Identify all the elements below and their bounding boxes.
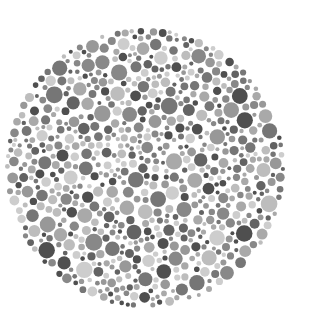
plate-dot — [57, 150, 69, 162]
plate-dot — [150, 235, 155, 240]
plate-dot — [257, 156, 262, 161]
plate-dot — [237, 221, 242, 226]
plate-dot — [158, 238, 169, 249]
plate-dot — [120, 286, 125, 291]
plate-dot — [77, 184, 82, 189]
plate-dot — [146, 34, 151, 39]
plate-dot — [196, 110, 207, 121]
plate-dot — [202, 72, 213, 83]
plate-dot — [266, 215, 271, 220]
plate-dot — [117, 149, 126, 158]
plate-dot — [50, 172, 56, 178]
plate-dot — [105, 242, 120, 257]
plate-dot — [180, 245, 190, 255]
plate-dot — [183, 104, 195, 116]
plate-dot — [204, 46, 209, 51]
plate-dot — [72, 274, 77, 279]
plate-dot — [156, 231, 162, 237]
plate-dot — [85, 234, 102, 251]
plate-dot — [27, 239, 34, 246]
plate-dot — [108, 79, 114, 85]
plate-dot — [52, 61, 67, 76]
plate-dot — [87, 184, 92, 189]
plate-dot — [185, 126, 189, 130]
plate-dot — [175, 123, 184, 132]
plate-dot — [129, 152, 136, 159]
plate-dot — [58, 256, 71, 269]
plate-dot — [165, 297, 174, 306]
plate-dot — [118, 38, 130, 50]
plate-dot — [149, 109, 155, 115]
plate-dot — [13, 118, 21, 126]
plate-dot — [145, 237, 150, 242]
plate-dot — [131, 302, 136, 307]
plate-dot — [164, 169, 169, 174]
plate-dot — [258, 240, 262, 244]
plate-dot — [152, 165, 159, 172]
plate-dot — [239, 129, 243, 133]
plate-dot — [184, 145, 188, 149]
plate-dot — [56, 271, 62, 277]
plate-dot — [104, 161, 112, 169]
plate-dot — [257, 163, 271, 177]
plate-dot — [103, 198, 112, 207]
plate-dot — [204, 173, 209, 178]
plate-dot — [128, 53, 132, 57]
plate-dot — [104, 223, 109, 228]
plate-dot — [250, 219, 260, 229]
plate-dot — [105, 287, 110, 292]
plate-dot — [114, 287, 120, 293]
plate-dot — [61, 218, 66, 223]
plate-dot — [96, 162, 101, 167]
plate-dot — [172, 62, 182, 72]
plate-dot — [242, 173, 246, 177]
plate-dot — [188, 238, 193, 243]
plate-dot — [73, 281, 78, 286]
plate-dot — [111, 64, 127, 80]
plate-dot — [132, 35, 137, 40]
plate-dot — [195, 73, 200, 78]
plate-dot — [248, 79, 252, 83]
plate-dot — [185, 75, 190, 80]
plate-dot — [124, 291, 130, 297]
plate-dot — [31, 147, 39, 155]
plate-dot — [79, 114, 84, 119]
plate-dot — [100, 44, 109, 53]
plate-dot — [100, 183, 104, 187]
plate-dot — [233, 174, 240, 181]
plate-dot — [64, 122, 68, 126]
plate-dot — [191, 192, 197, 198]
plate-dot — [76, 262, 92, 278]
plate-dot — [63, 185, 70, 192]
plate-dot — [136, 56, 141, 61]
plate-dot — [45, 69, 51, 75]
plate-dot — [144, 242, 155, 253]
plate-dot — [126, 216, 134, 224]
plate-dot — [207, 118, 212, 123]
plate-dot — [230, 126, 238, 134]
plate-dot — [240, 77, 247, 84]
plate-dot — [200, 148, 205, 153]
plate-dot — [119, 53, 128, 62]
plate-dot — [136, 76, 141, 81]
plate-dot — [245, 85, 250, 90]
plate-dot — [29, 176, 34, 181]
plate-dot — [62, 207, 66, 211]
plate-dot — [112, 56, 118, 62]
plate-dot — [46, 144, 53, 151]
plate-dot — [259, 101, 266, 108]
plate-dot — [104, 260, 110, 266]
plate-dot — [9, 157, 19, 167]
plate-dot — [246, 164, 255, 173]
plate-dot — [231, 80, 239, 88]
plate-dot — [190, 81, 199, 90]
plate-dot — [7, 188, 13, 194]
plate-dot — [125, 127, 131, 133]
plate-dot — [214, 50, 224, 60]
plate-dot — [8, 139, 13, 144]
plate-dot — [87, 114, 93, 120]
plate-dot — [27, 143, 32, 148]
plate-dot — [121, 180, 126, 185]
plate-dot — [138, 272, 152, 286]
plate-dot — [231, 184, 240, 193]
